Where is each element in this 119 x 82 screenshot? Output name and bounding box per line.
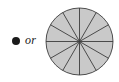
connector-text: or [25, 33, 36, 47]
pie-diagram [45, 7, 114, 76]
figure-canvas: or [0, 0, 119, 82]
bullet-dot-icon [12, 37, 20, 45]
pie-sectors-svg [45, 7, 114, 76]
